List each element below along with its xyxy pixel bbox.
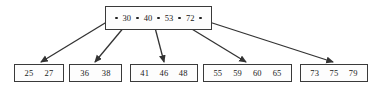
root-node[interactable]: 30405372 — [105, 6, 212, 30]
leaf-node-4-key-2: 59 — [233, 69, 242, 78]
leaf-node-3[interactable]: 414648 — [130, 64, 198, 82]
root-key-1: 30 — [118, 14, 137, 23]
leaf-node-1[interactable]: 2527 — [14, 64, 64, 82]
leaf-node-1-key-1: 25 — [25, 69, 34, 78]
leaf-node-3-keys: 414648 — [131, 69, 197, 78]
root-pointer-5[interactable] — [199, 17, 202, 20]
leaf-node-5-key-1: 73 — [310, 69, 319, 78]
leaf-node-4-key-1: 55 — [213, 69, 222, 78]
root-key-3: 53 — [160, 14, 179, 23]
btree-diagram: 30405372 2527363841464855596065737579 — [0, 0, 378, 90]
leaf-node-1-key-2: 27 — [45, 69, 54, 78]
leaf-node-5-key-3: 79 — [349, 69, 358, 78]
leaf-node-4[interactable]: 55596065 — [203, 64, 292, 82]
leaf-node-3-key-1: 41 — [140, 69, 149, 78]
root-key-4: 72 — [181, 14, 200, 23]
leaf-node-2-key-2: 38 — [102, 69, 111, 78]
leaf-node-1-keys: 2527 — [15, 69, 63, 78]
leaf-node-4-key-4: 65 — [273, 69, 282, 78]
leaf-node-5-key-2: 75 — [330, 69, 339, 78]
leaf-node-2-keys: 3638 — [70, 69, 121, 78]
leaf-node-2[interactable]: 3638 — [69, 64, 122, 82]
leaf-node-5[interactable]: 737579 — [300, 64, 368, 82]
leaf-node-4-keys: 55596065 — [204, 69, 291, 78]
edge-root-to-leaf-1 — [41, 20, 110, 62]
leaf-node-3-key-2: 46 — [160, 69, 169, 78]
leaf-node-5-keys: 737579 — [301, 69, 367, 78]
edge-root-to-leaf-5 — [203, 20, 333, 62]
leaf-node-4-key-3: 60 — [253, 69, 262, 78]
leaf-node-3-key-3: 48 — [179, 69, 188, 78]
leaf-node-2-key-1: 36 — [80, 69, 89, 78]
root-key-2: 40 — [139, 14, 158, 23]
